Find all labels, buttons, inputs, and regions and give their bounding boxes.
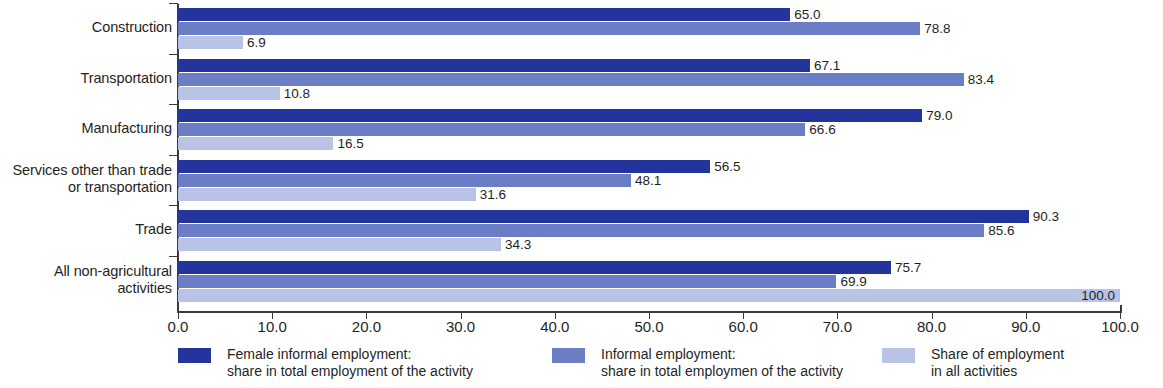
x-axis-tick: [1120, 313, 1121, 319]
bar-value-label: 67.1: [810, 59, 840, 72]
bar-value-label: 85.6: [984, 224, 1014, 237]
chart-legend: Female informal employment:share in tota…: [0, 344, 1163, 388]
x-axis-tick-label: 60.0: [729, 318, 758, 336]
x-axis-tick-label: 50.0: [634, 318, 663, 336]
category-label: Trade: [0, 221, 172, 238]
bar[interactable]: [178, 174, 631, 187]
bar[interactable]: [178, 8, 790, 21]
legend-item[interactable]: Female informal employment:share in tota…: [178, 346, 473, 380]
bar-value-label: 6.9: [243, 36, 266, 49]
bar-group: 67.183.410.8: [178, 59, 1121, 100]
category-axis-labels: ConstructionTransportationManufacturingS…: [0, 0, 172, 312]
bar-value-label: 79.0: [922, 109, 952, 122]
bar-group: 90.385.634.3: [178, 210, 1121, 251]
bar-value-label: 100.0: [1081, 289, 1120, 302]
bar-value-label: 75.7: [891, 261, 921, 274]
x-axis-tick-labels: 0.010.020.030.040.050.060.070.080.090.01…: [0, 318, 1163, 340]
x-axis-tick-label: 40.0: [540, 318, 569, 336]
bar-value-label: 90.3: [1029, 210, 1059, 223]
bar[interactable]: [178, 224, 984, 237]
x-axis-tick: [932, 313, 933, 319]
x-axis-tick-label: 90.0: [1011, 318, 1040, 336]
x-axis-tick-label: 0.0: [168, 318, 189, 336]
legend-label-line1: Informal employment:: [601, 346, 843, 363]
y-axis-tick: [169, 256, 178, 257]
x-axis-tick: [1026, 313, 1027, 319]
x-axis-tick: [366, 313, 367, 319]
x-axis-tick-label: 30.0: [446, 318, 475, 336]
bar-value-label: 16.5: [333, 137, 363, 150]
category-label: Services other than tradeor transportati…: [0, 162, 172, 196]
category-label: Construction: [0, 19, 172, 36]
bar-value-label: 34.3: [501, 238, 531, 251]
bar-value-label: 56.5: [710, 160, 740, 173]
bar-group: 56.548.131.6: [178, 160, 1121, 201]
bar[interactable]: [178, 109, 922, 122]
bar-value-label: 78.8: [920, 22, 950, 35]
bar[interactable]: [178, 188, 476, 201]
y-axis-tick: [169, 104, 178, 105]
bar[interactable]: [178, 36, 243, 49]
category-label: All non-agriculturalactivities: [0, 263, 172, 297]
x-axis-tick: [461, 313, 462, 319]
plot-area: 65.078.86.967.183.410.879.066.616.556.54…: [178, 0, 1121, 312]
legend-label-line2: share in total employmen of the activity: [601, 363, 843, 380]
legend-item[interactable]: Informal employment:share in total emplo…: [552, 346, 843, 380]
x-axis-tick-label: 100.0: [1101, 318, 1139, 336]
bar-group: 79.066.616.5: [178, 109, 1121, 150]
bar[interactable]: [178, 238, 501, 251]
legend-swatch: [882, 348, 915, 363]
legend-label-line2: in all activities: [931, 363, 1064, 380]
horizontal-bar-chart: ConstructionTransportationManufacturingS…: [0, 0, 1163, 388]
legend-label-line1: Share of employment: [931, 346, 1064, 363]
bar[interactable]: [178, 160, 710, 173]
legend-item[interactable]: Share of employmentin all activities: [882, 346, 1064, 380]
x-axis-tick: [743, 313, 744, 319]
bar[interactable]: [178, 59, 810, 72]
bar[interactable]: [178, 137, 333, 150]
bar-value-label: 65.0: [790, 8, 820, 21]
x-axis-tick-label: 10.0: [258, 318, 287, 336]
x-axis-tick: [272, 313, 273, 319]
legend-swatch: [552, 348, 585, 363]
x-axis-tick: [649, 313, 650, 319]
bar-value-label: 10.8: [280, 87, 310, 100]
legend-label: Share of employmentin all activities: [931, 346, 1064, 380]
bar-value-label: 69.9: [836, 275, 866, 288]
category-label: Transportation: [0, 70, 172, 87]
x-axis-tick-label: 70.0: [823, 318, 852, 336]
bar[interactable]: [178, 275, 836, 288]
bar[interactable]: [178, 73, 964, 86]
legend-label-line1: Female informal employment:: [227, 346, 473, 363]
x-axis-tick: [178, 313, 179, 319]
legend-label: Informal employment:share in total emplo…: [601, 346, 843, 380]
bar[interactable]: [178, 123, 805, 136]
bar[interactable]: [178, 289, 1120, 302]
bar-group: 65.078.86.9: [178, 8, 1121, 49]
x-axis-tick-label: 80.0: [917, 318, 946, 336]
x-axis-tick: [837, 313, 838, 319]
bar-value-label: 48.1: [631, 174, 661, 187]
bar-value-label: 66.6: [805, 123, 835, 136]
legend-label: Female informal employment:share in tota…: [227, 346, 473, 380]
y-axis-tick: [169, 54, 178, 55]
x-axis-tick: [555, 313, 556, 319]
y-axis-tick: [169, 205, 178, 206]
y-axis-tick: [169, 155, 178, 156]
legend-swatch: [178, 348, 211, 363]
legend-label-line2: share in total employment of the activit…: [227, 363, 473, 380]
x-axis-tick-label: 20.0: [352, 318, 381, 336]
bar-value-label: 31.6: [476, 188, 506, 201]
bar[interactable]: [178, 87, 280, 100]
bar[interactable]: [178, 261, 891, 274]
y-axis-tick: [169, 3, 178, 4]
bar[interactable]: [178, 22, 920, 35]
bar-group: 75.769.9100.0: [178, 261, 1121, 302]
bar-value-label: 83.4: [964, 73, 994, 86]
bar[interactable]: [178, 210, 1029, 223]
category-label: Manufacturing: [0, 120, 172, 137]
